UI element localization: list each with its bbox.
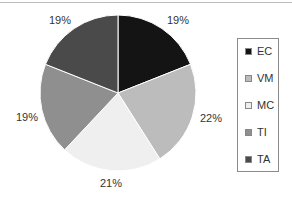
slice-label-mc: 21% xyxy=(100,177,122,189)
legend-swatch-ti xyxy=(245,129,252,136)
legend-swatch-mc xyxy=(245,102,252,109)
legend-item-vm: VM xyxy=(245,72,274,84)
slice-label-ec: 19% xyxy=(167,14,189,26)
legend-label-ec: EC xyxy=(257,45,272,57)
legend-item-mc: MC xyxy=(245,99,274,111)
slice-label-ti: 19% xyxy=(16,111,38,123)
legend-item-ta: TA xyxy=(245,153,270,165)
legend-item-ec: EC xyxy=(245,45,272,57)
legend-label-vm: VM xyxy=(257,72,274,84)
legend-swatch-ec xyxy=(245,48,252,55)
legend-label-mc: MC xyxy=(257,99,274,111)
legend-item-ti: TI xyxy=(245,126,267,138)
legend-swatch-ta xyxy=(245,156,252,163)
legend-label-ti: TI xyxy=(257,126,267,138)
legend-label-ta: TA xyxy=(257,153,270,165)
chart-legend: EC VM MC TI TA xyxy=(237,38,279,172)
slice-label-vm: 22% xyxy=(200,112,222,124)
legend-swatch-vm xyxy=(245,75,252,82)
slice-label-ta: 19% xyxy=(49,14,71,26)
